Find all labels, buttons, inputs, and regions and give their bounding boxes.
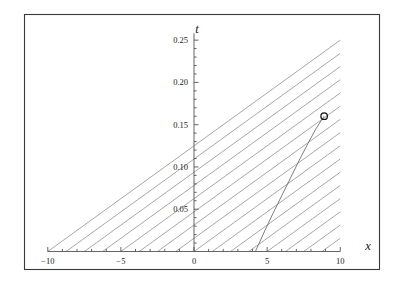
breaking-point-marker-group bbox=[321, 113, 328, 120]
figure-root: −10−50510 0.050.100.150.200.25 t x Famil… bbox=[0, 0, 402, 288]
x-axis-tick-label: 0 bbox=[192, 256, 196, 266]
x-axis-tick-label: 5 bbox=[265, 256, 269, 266]
y-axis-tick-label: 0.10 bbox=[173, 162, 188, 172]
x-axis-tick-label: −5 bbox=[116, 256, 125, 266]
y-axis-title: t bbox=[195, 22, 199, 36]
y-axis-tick-label: 0.20 bbox=[173, 77, 188, 87]
x-axis-tick-label: −10 bbox=[41, 256, 54, 266]
y-axis-tick-label: 0.15 bbox=[173, 120, 188, 130]
characteristics-plot: −10−50510 0.050.100.150.200.25 t x bbox=[0, 0, 402, 288]
y-axis-tick-label: 0.25 bbox=[173, 35, 188, 45]
breaking-point-marker bbox=[321, 113, 328, 120]
figure-frame bbox=[25, 15, 380, 270]
x-axis-title: x bbox=[364, 239, 371, 253]
y-axis-tick-label: 0.05 bbox=[173, 204, 188, 214]
x-axis-tick-label: 10 bbox=[336, 256, 345, 266]
